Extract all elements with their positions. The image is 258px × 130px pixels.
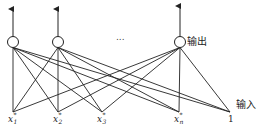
input-variable-label: x*3: [97, 111, 107, 125]
bias-input-label: 1: [228, 114, 234, 124]
input-labels: x*1x*2x*3x*n1: [8, 111, 234, 125]
ellipsis: ...: [116, 32, 125, 42]
output-node: [175, 37, 186, 48]
edge: [102, 48, 180, 113]
output-arrows: [13, 6, 180, 37]
edge: [179, 48, 180, 113]
output-node: [53, 37, 64, 48]
output-node: [8, 37, 19, 48]
input-variable-label: x*n: [174, 111, 184, 125]
input-label: 输入: [236, 98, 256, 110]
output-label: 输出: [187, 35, 207, 47]
input-variable-label: x*2: [53, 111, 63, 125]
input-variable-label: x*1: [8, 111, 17, 125]
edge: [58, 48, 230, 113]
connection-edges: [13, 48, 230, 113]
edge: [13, 48, 102, 113]
neural-network-diagram: x*1x*2x*3x*n1 ... 输出 输入: [0, 0, 258, 130]
edge: [13, 48, 230, 113]
output-nodes: [8, 37, 186, 48]
